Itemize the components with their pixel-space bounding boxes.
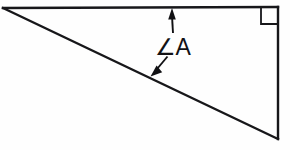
geometry-diagram: ∠A [0,0,290,150]
angle-a-label: ∠A [155,34,192,60]
top-horizontal-leg [3,7,278,8]
triangle-figure: ∠A [0,0,290,150]
hypotenuse [3,8,278,139]
leader-up-arrow-icon [168,8,176,33]
right-angle-square-icon [261,8,277,24]
